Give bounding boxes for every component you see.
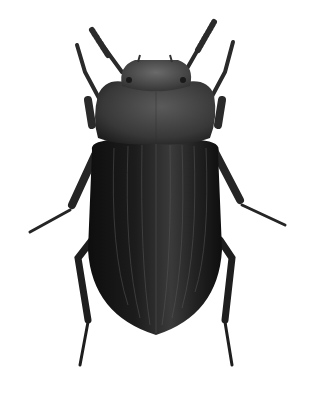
beetle-illustration: [0, 0, 310, 393]
elytra: [88, 140, 222, 335]
head: [121, 60, 191, 91]
